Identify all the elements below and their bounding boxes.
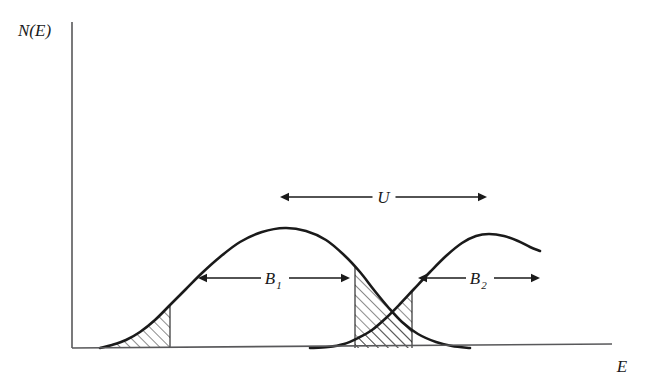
y-axis-label: N(E) xyxy=(17,21,51,40)
annotation-layer: UB1B2 xyxy=(198,188,540,291)
annotation-subscript-b2: 2 xyxy=(481,279,487,291)
upper-hubbard-band-curve xyxy=(310,234,540,348)
density-of-states-figure: N(E) E UB1B2 xyxy=(0,0,649,384)
annotation-subscript-b1: 1 xyxy=(276,279,282,291)
annotation-label-u: U xyxy=(377,188,391,207)
figure-container: N(E) E UB1B2 xyxy=(0,0,649,384)
arrowhead-right xyxy=(478,193,487,201)
x-axis-label: E xyxy=(616,357,628,376)
arrowhead-right xyxy=(341,274,350,282)
annotation-u: U xyxy=(280,188,487,207)
annotation-label-b1: B xyxy=(265,269,276,288)
annotation-b1: B1 xyxy=(198,269,350,291)
arrowhead-left xyxy=(280,193,289,201)
annotation-b2: B2 xyxy=(418,269,540,291)
arrowhead-right xyxy=(531,274,540,282)
annotation-label-b2: B xyxy=(470,269,481,288)
